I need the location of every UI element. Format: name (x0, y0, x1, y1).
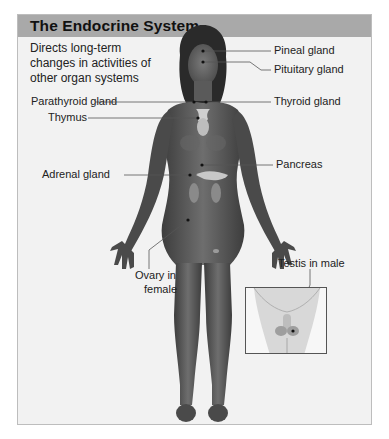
label-ovary-line2: female (144, 283, 177, 295)
label-adrenal-gland: Adrenal gland (42, 168, 110, 180)
figure-panel: The Endocrine System Directs long-term c… (17, 14, 372, 425)
label-pancreas: Pancreas (276, 158, 322, 170)
label-thymus: Thymus (48, 111, 87, 123)
label-pineal-gland: Pineal gland (274, 44, 335, 56)
human-body-illustration (18, 15, 372, 425)
label-parathyroid-gland: Parathyroid gland (31, 95, 117, 107)
label-thyroid-gland: Thyroid gland (274, 95, 341, 107)
male-pelvis-icon (246, 288, 327, 354)
label-testis: Testis in male (278, 257, 345, 269)
male-inset-illustration (245, 287, 327, 354)
label-ovary-line1: Ovary in (135, 269, 176, 281)
label-pituitary-gland: Pituitary gland (274, 63, 344, 75)
